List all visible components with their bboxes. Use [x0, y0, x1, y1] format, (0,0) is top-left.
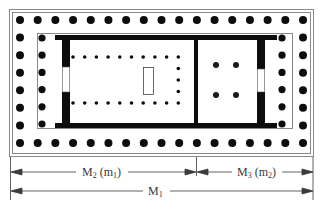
column	[211, 16, 219, 24]
column	[165, 101, 169, 105]
column	[175, 16, 183, 24]
left-wall-upper	[62, 35, 70, 67]
column	[299, 139, 307, 147]
rear-door	[258, 69, 265, 92]
column	[16, 34, 24, 42]
column	[16, 86, 24, 94]
top-wall	[55, 35, 277, 40]
column	[233, 92, 239, 98]
column	[299, 51, 307, 59]
column	[16, 139, 24, 147]
column	[233, 62, 239, 68]
column	[264, 139, 272, 147]
column	[38, 52, 45, 59]
column	[177, 67, 181, 71]
column	[69, 139, 77, 147]
column	[83, 55, 87, 59]
column	[177, 78, 181, 82]
column	[281, 139, 289, 147]
arrowhead-left	[11, 188, 22, 194]
column	[122, 16, 130, 24]
column	[118, 55, 122, 59]
column	[278, 86, 285, 93]
column	[177, 55, 181, 59]
statue-base	[144, 68, 154, 95]
cella-walls	[55, 35, 277, 128]
column	[299, 104, 307, 112]
column	[38, 120, 45, 127]
column	[281, 16, 289, 24]
inner-columns	[38, 34, 285, 127]
temple-floor-plan: M2 (m1) M3 (m2) M1	[0, 0, 323, 210]
column	[51, 139, 59, 147]
column	[106, 55, 110, 59]
column	[104, 16, 112, 24]
arrowhead-left	[11, 169, 22, 175]
column	[140, 16, 148, 24]
column	[38, 86, 45, 93]
column	[38, 34, 45, 41]
column	[95, 101, 99, 105]
column	[122, 139, 130, 147]
arrowhead-right	[185, 169, 196, 175]
column	[16, 51, 24, 59]
column	[177, 90, 181, 94]
column	[213, 62, 219, 68]
column	[246, 16, 254, 24]
right-wall-upper	[257, 35, 265, 69]
column	[211, 139, 219, 147]
column	[104, 139, 112, 147]
dividing-wall	[194, 35, 198, 128]
column	[175, 139, 183, 147]
column	[38, 103, 45, 110]
inner-platform-outline	[38, 34, 293, 129]
column	[153, 55, 157, 59]
column	[193, 139, 201, 147]
column	[34, 139, 42, 147]
column	[71, 55, 75, 59]
column	[95, 55, 99, 59]
bottom-wall	[55, 123, 277, 128]
column	[16, 104, 24, 112]
column	[16, 121, 24, 129]
column	[16, 69, 24, 77]
column	[299, 86, 307, 94]
column	[278, 120, 285, 127]
interior-colonnade	[71, 55, 180, 105]
column	[165, 55, 169, 59]
column	[228, 139, 236, 147]
column	[141, 101, 145, 105]
column	[141, 55, 145, 59]
column	[87, 139, 95, 147]
column	[130, 101, 134, 105]
column	[246, 139, 254, 147]
column	[299, 34, 307, 42]
right-wall-lower	[257, 92, 265, 128]
arrowhead-right	[302, 169, 313, 175]
column	[38, 69, 45, 76]
front-door	[63, 67, 70, 92]
column	[278, 34, 285, 41]
column	[118, 101, 122, 105]
column	[153, 101, 157, 105]
arrowhead-left	[197, 169, 208, 175]
column	[278, 103, 285, 110]
door-openings	[63, 67, 265, 92]
arrowhead-right	[302, 188, 313, 194]
column	[158, 16, 166, 24]
column	[278, 69, 285, 76]
column	[16, 16, 24, 24]
column	[51, 16, 59, 24]
label-m2: M2 (m1)	[82, 165, 121, 180]
left-wall-lower	[62, 92, 70, 128]
column	[213, 92, 219, 98]
label-m3: M3 (m2)	[237, 165, 276, 180]
column	[177, 101, 181, 105]
column	[299, 69, 307, 77]
column	[87, 16, 95, 24]
column	[83, 101, 87, 105]
column	[158, 139, 166, 147]
column	[299, 16, 307, 24]
column	[130, 55, 134, 59]
column	[193, 16, 201, 24]
